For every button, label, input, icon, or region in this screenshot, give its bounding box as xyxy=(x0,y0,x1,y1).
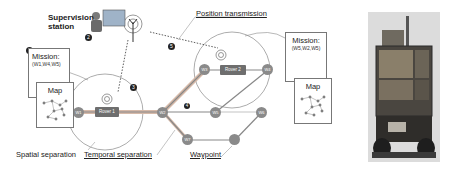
map-graph-icon xyxy=(296,91,330,121)
waypoint-label: Waypoint xyxy=(190,150,221,159)
badge-4: 4 xyxy=(184,103,190,109)
spatial-separation-label: Spatial separation xyxy=(16,150,76,159)
map-card-1: Map xyxy=(36,82,74,128)
waypoint-w1: W1 xyxy=(73,107,84,118)
badge-2: 2 xyxy=(85,34,92,41)
transmission-link-rover2 xyxy=(150,32,218,48)
rover-robot-photo xyxy=(368,12,440,162)
badge-3: 3 xyxy=(130,84,137,91)
waypoint-w4: W4 xyxy=(262,64,273,75)
map-graph-icon xyxy=(38,95,72,125)
waypoint-w6: W6 xyxy=(256,107,267,118)
rover1-signal-icon xyxy=(102,94,112,104)
mission-card-2: Mission: (W5,W2,W5) xyxy=(285,32,327,82)
waypoint-w5: W5 xyxy=(210,107,221,118)
antenna-icon xyxy=(124,15,142,42)
position-transmission-label: Position transmission xyxy=(196,9,267,18)
rover-2: Rover 2 xyxy=(220,65,246,75)
supervision-station-icon xyxy=(91,10,125,32)
rover2-signal-icon xyxy=(216,50,226,60)
transmission-link-rover1 xyxy=(118,40,128,92)
rover-1: Rover 1 xyxy=(95,107,119,117)
badge-5: 5 xyxy=(168,43,175,50)
robot-photo-icon xyxy=(368,12,440,162)
map-card-2: Map xyxy=(294,78,332,124)
waypoint-w3: W3 xyxy=(199,64,210,75)
supervision-station-label: Supervision station xyxy=(48,13,94,31)
waypoint-w2: W2 xyxy=(157,107,168,118)
temporal-separation-label: Temporal separation xyxy=(84,150,152,159)
waypoint-w7: W7 xyxy=(182,134,193,145)
waypoint-w8 xyxy=(229,134,240,145)
